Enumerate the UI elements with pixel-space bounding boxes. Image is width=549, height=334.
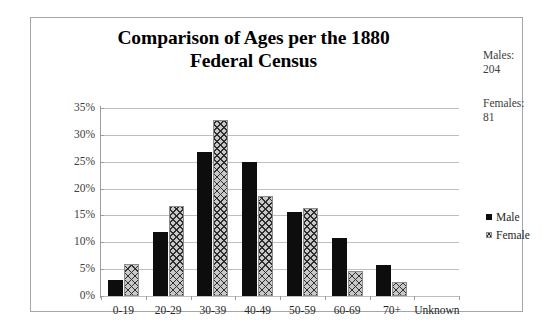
y-axis-tick-label: 25% [55, 155, 95, 167]
y-axis-tick-label: 30% [55, 128, 95, 140]
y-axis-tick-mark [100, 189, 104, 190]
x-axis-label-0-19: 0-19 [101, 304, 146, 316]
females-count: 81 [483, 110, 549, 124]
x-axis-tick-mark [280, 296, 281, 300]
legend-item-label: Female [496, 229, 530, 241]
males-total-annotation: Males: 204 [483, 48, 549, 76]
gridline [101, 135, 459, 136]
plot-area [101, 108, 459, 296]
chart-title-line-2: Federal Census [190, 50, 317, 71]
solid-square-marker [486, 214, 492, 220]
bar-female-30-39 [213, 120, 228, 296]
bar-male-50-59 [287, 212, 302, 296]
females-total-annotation: Females: 81 [483, 96, 549, 124]
legend-item-female[interactable]: Female [486, 229, 549, 247]
bar-female-60-69 [348, 271, 363, 296]
x-axis-tick-mark [191, 296, 192, 300]
x-axis-label-60-69: 60-69 [325, 304, 370, 316]
gridline [101, 215, 459, 216]
y-axis-tick-label: 0% [55, 289, 95, 301]
y-axis-tick-label: 15% [55, 208, 95, 220]
gridline [101, 162, 459, 163]
bar-female-20-29 [169, 206, 184, 296]
legend-item-male[interactable]: Male [486, 211, 549, 229]
y-axis-tick-label: 5% [55, 262, 95, 274]
bar-male-20-29 [153, 232, 168, 296]
bar-male-30-39 [197, 152, 212, 296]
x-axis-tick-mark [146, 296, 147, 300]
x-axis-tick-mark [235, 296, 236, 300]
x-axis-tick-mark [459, 296, 460, 300]
gridline [101, 108, 459, 109]
x-axis-label-20-29: 20-29 [146, 304, 191, 316]
bar-male-70plus [376, 265, 391, 296]
y-axis-tick-mark [100, 242, 104, 243]
chart-title-line-1: Comparison of Ages per the 1880 [117, 27, 389, 48]
chart-container: Comparison of Ages per the 1880 Federal … [30, 17, 523, 312]
x-axis-label-Unknown: Unknown [414, 304, 459, 316]
y-axis-tick-mark [100, 135, 104, 136]
bar-male-0-19 [108, 280, 123, 296]
chart-legend: MaleFemale [486, 211, 549, 247]
x-axis-label-40-49: 40-49 [235, 304, 280, 316]
x-axis-tick-mark [101, 296, 102, 300]
y-axis-tick-label: 35% [55, 101, 95, 113]
x-axis-tick-mark [370, 296, 371, 300]
x-axis-tick-mark [414, 296, 415, 300]
males-count: 204 [483, 62, 549, 76]
y-axis-tick-label: 20% [55, 182, 95, 194]
bar-female-40-49 [258, 196, 273, 296]
crosshatch-square-marker [486, 232, 492, 238]
bar-female-50-59 [303, 208, 318, 296]
x-axis-tick-mark [325, 296, 326, 300]
gridline [101, 189, 459, 190]
y-axis-tick-mark [100, 269, 104, 270]
legend-item-label: Male [496, 211, 520, 223]
bar-female-0-19 [124, 264, 139, 296]
x-axis-label-30-39: 30-39 [191, 304, 236, 316]
y-axis-tick-mark [100, 162, 104, 163]
chart-title: Comparison of Ages per the 1880 Federal … [71, 26, 436, 72]
bar-male-60-69 [332, 238, 347, 296]
y-axis-tick-mark [100, 215, 104, 216]
x-axis-label-50-59: 50-59 [280, 304, 325, 316]
males-label: Males: [483, 48, 549, 62]
y-axis-tick-label: 10% [55, 235, 95, 247]
bar-female-70plus [392, 282, 407, 297]
bar-male-40-49 [242, 162, 257, 296]
x-axis-tick-labels: 0-1920-2930-3940-4950-5960-6970+Unknown [101, 304, 459, 324]
y-axis-tick-labels: 0%5%10%15%20%25%30%35% [53, 108, 95, 296]
females-label: Females: [483, 96, 549, 110]
y-axis-tick-mark [100, 108, 104, 109]
x-axis-label-70plus: 70+ [370, 304, 415, 316]
